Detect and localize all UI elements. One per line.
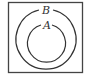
- venn-diagram: B A: [0, 0, 88, 77]
- set-b-label: B: [41, 4, 50, 17]
- set-a-label: A: [42, 19, 51, 32]
